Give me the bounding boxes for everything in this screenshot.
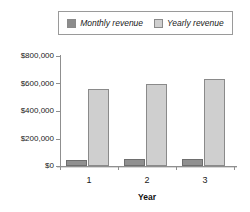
x-tick-label-1: 1 xyxy=(74,176,104,185)
x-tick-mark-1 xyxy=(118,166,119,170)
bar-group-year-3 xyxy=(182,56,226,166)
legend-swatch-yearly-icon xyxy=(154,19,163,28)
legend-label-monthly: Monthly revenue xyxy=(80,19,143,28)
x-tick-mark-right xyxy=(234,166,235,170)
x-axis-baseline-shadow xyxy=(57,167,237,168)
bar-yearly-year-3[interactable] xyxy=(204,79,225,166)
bar-monthly-year-3[interactable] xyxy=(182,159,203,166)
y-tick-label-400000: $400,000 xyxy=(2,107,54,115)
bar-yearly-year-1[interactable] xyxy=(88,89,109,166)
x-tick-label-3: 3 xyxy=(190,176,220,185)
legend-item-monthly-revenue[interactable]: Monthly revenue xyxy=(67,19,143,28)
bar-group-year-1 xyxy=(66,56,110,166)
chart-legend: Monthly revenue Yearly revenue xyxy=(58,11,233,35)
bar-group-year-2 xyxy=(124,56,168,166)
legend-swatch-monthly-icon xyxy=(67,19,76,28)
bar-yearly-year-2[interactable] xyxy=(146,84,167,166)
y-axis-labels: $800,000 $600,000 $400,000 $200,000 $0 xyxy=(0,0,54,212)
legend-item-yearly-revenue[interactable]: Yearly revenue xyxy=(154,19,224,28)
bar-monthly-year-1[interactable] xyxy=(66,160,87,166)
y-tick-label-600000: $600,000 xyxy=(2,80,54,88)
x-tick-mark-left xyxy=(60,166,61,170)
bar-monthly-year-2[interactable] xyxy=(124,159,145,166)
y-tick-label-0: $0 xyxy=(2,162,54,170)
y-tick-label-200000: $200,000 xyxy=(2,135,54,143)
bar-chart: Monthly revenue Yearly revenue $800,000 … xyxy=(0,0,250,212)
x-tick-mark-2 xyxy=(176,166,177,170)
x-tick-label-2: 2 xyxy=(132,176,162,185)
legend-label-yearly: Yearly revenue xyxy=(167,19,224,28)
x-axis-title: Year xyxy=(60,193,234,202)
plot-area xyxy=(60,56,234,166)
y-tick-label-800000: $800,000 xyxy=(2,52,54,60)
